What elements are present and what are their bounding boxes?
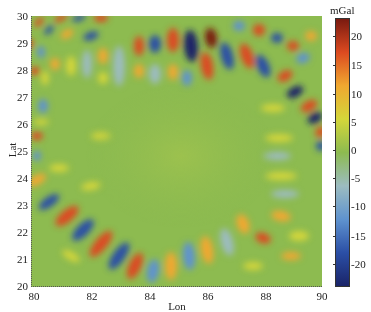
anomaly-blob xyxy=(149,64,161,84)
colorbar-tick: 10 xyxy=(351,89,362,100)
anomaly-blob xyxy=(82,50,92,78)
colorbar-tick-mark xyxy=(333,94,336,95)
y-axis-label: Lat xyxy=(6,138,18,162)
anomaly-blob xyxy=(66,56,76,76)
anomaly-blob xyxy=(41,71,49,85)
x-tick: 88 xyxy=(254,291,278,302)
colorbar-tick-mark xyxy=(333,264,336,265)
colorbar-unit-label: mGal xyxy=(330,4,354,16)
x-tick: 84 xyxy=(138,291,162,302)
anomaly-blob xyxy=(98,72,108,84)
anomaly-blob xyxy=(168,64,178,80)
anomaly-blob xyxy=(134,36,144,56)
anomaly-blob xyxy=(149,35,161,53)
y-tick: 24 xyxy=(8,173,28,184)
gravity-anomaly-figure: 30 29 28 27 26 25 24 23 22 21 20 80 82 8… xyxy=(0,0,371,312)
anomaly-blob xyxy=(243,262,263,270)
y-tick: 22 xyxy=(8,227,28,238)
anomaly-blob xyxy=(253,24,265,36)
colorbar-tick: 5 xyxy=(351,117,357,128)
anomaly-blob xyxy=(50,58,60,70)
y-tick: 21 xyxy=(8,254,28,265)
y-tick: 23 xyxy=(8,200,28,211)
colorbar xyxy=(335,18,350,287)
anomaly-blob xyxy=(182,70,192,86)
anomaly-blob xyxy=(33,151,41,161)
colorbar-tick: 0 xyxy=(351,145,357,156)
anomaly-blob xyxy=(38,99,48,113)
colorbar-tick: -20 xyxy=(351,259,366,270)
y-tick: 29 xyxy=(8,38,28,49)
x-tick: 86 xyxy=(196,291,220,302)
anomaly-blob xyxy=(37,46,45,58)
colorbar-tick-mark xyxy=(333,36,336,37)
anomaly-blob xyxy=(31,132,43,140)
x-axis-label: Lon xyxy=(162,300,192,312)
x-tick: 80 xyxy=(22,291,46,302)
anomaly-blob xyxy=(271,33,283,43)
anomaly-blob xyxy=(165,252,177,280)
anomaly-blob xyxy=(271,190,299,198)
colorbar-tick: -15 xyxy=(351,231,366,242)
anomaly-blob xyxy=(33,119,49,125)
anomaly-blob xyxy=(305,31,317,41)
colorbar-tick-mark xyxy=(333,122,336,123)
x-tick: 90 xyxy=(310,291,334,302)
colorbar-tick-mark xyxy=(333,206,336,207)
anomaly-blob xyxy=(98,48,108,64)
anomaly-blob xyxy=(134,64,144,78)
colorbar-tick: 20 xyxy=(351,31,362,42)
anomaly-blob xyxy=(233,21,245,31)
anomaly-blob xyxy=(167,28,179,52)
anomaly-blob xyxy=(289,231,309,241)
heatmap-plot-area xyxy=(31,16,322,287)
anomaly-blob xyxy=(287,41,299,51)
y-tick: 30 xyxy=(8,11,28,22)
heatmap-canvas xyxy=(31,16,322,287)
anomaly-blob xyxy=(113,46,125,86)
anomaly-blob xyxy=(261,104,285,112)
anomaly-blob xyxy=(49,164,69,172)
x-tick: 82 xyxy=(80,291,104,302)
y-tick: 26 xyxy=(8,119,28,130)
colorbar-tick: 15 xyxy=(351,60,362,71)
y-tick: 28 xyxy=(8,65,28,76)
y-tick: 27 xyxy=(8,92,28,103)
anomaly-blob xyxy=(281,252,301,260)
colorbar-tick-mark xyxy=(333,178,336,179)
colorbar-tick-mark xyxy=(333,65,336,66)
quiet-center xyxy=(86,84,276,228)
colorbar-tick: -5 xyxy=(351,173,360,184)
colorbar-tick: -10 xyxy=(351,201,366,212)
colorbar-tick-mark xyxy=(333,150,336,151)
colorbar-tick-mark xyxy=(333,236,336,237)
